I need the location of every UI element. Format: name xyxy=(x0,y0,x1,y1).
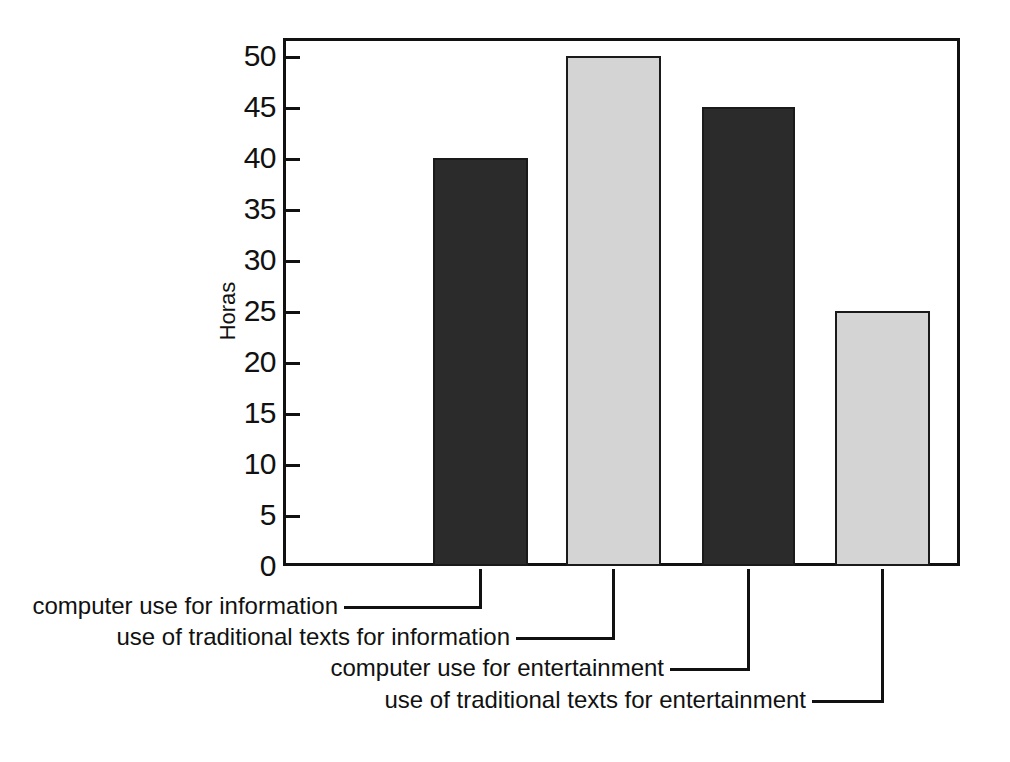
y-tick-mark-15 xyxy=(283,413,300,416)
y-tick-label-30: 30 xyxy=(244,245,276,275)
y-tick-label-35: 35 xyxy=(244,194,276,224)
y-tick-label-25: 25 xyxy=(244,296,276,326)
y-tick-mark-5 xyxy=(283,515,300,518)
y-tick-label-0: 0 xyxy=(260,551,276,581)
y-tick-mark-35 xyxy=(283,209,300,212)
y-tick-label-15: 15 xyxy=(244,398,276,428)
y-tick-mark-25 xyxy=(283,311,300,314)
y-tick-label-50: 50 xyxy=(244,41,276,71)
y-tick-label-5: 5 xyxy=(260,500,276,530)
y-tick-mark-40 xyxy=(283,158,300,161)
bar-traditional-texts-for-entertainment[interactable] xyxy=(835,311,930,566)
leader-line-vertical-4 xyxy=(881,569,884,700)
bar-chart-figure: 50 45 40 35 30 25 20 15 10 5 0 Horas com… xyxy=(0,0,1010,762)
category-label-traditional-texts-for-information: use of traditional texts for information xyxy=(0,625,510,649)
y-tick-mark-10 xyxy=(283,464,300,467)
y-tick-mark-30 xyxy=(283,260,300,263)
leader-line-horizontal-3 xyxy=(670,668,750,671)
y-tick-label-40: 40 xyxy=(244,143,276,173)
y-axis-title: Horas xyxy=(217,251,239,371)
category-label-computer-use-for-entertainment: computer use for entertainment xyxy=(0,656,664,680)
y-tick-mark-20 xyxy=(283,362,300,365)
leader-line-horizontal-4 xyxy=(812,700,884,703)
leader-line-horizontal-2 xyxy=(516,637,615,640)
y-tick-label-45: 45 xyxy=(244,92,276,122)
leader-line-vertical-1 xyxy=(479,569,482,606)
y-tick-mark-50 xyxy=(283,56,300,59)
y-tick-mark-45 xyxy=(283,107,300,110)
leader-line-horizontal-1 xyxy=(344,606,482,609)
y-tick-label-10: 10 xyxy=(244,449,276,479)
bar-computer-use-for-information[interactable] xyxy=(433,158,528,566)
y-tick-label-20: 20 xyxy=(244,347,276,377)
category-label-computer-use-for-information: computer use for information xyxy=(0,594,338,618)
bar-traditional-texts-for-information[interactable] xyxy=(566,56,661,566)
leader-line-vertical-3 xyxy=(747,569,750,668)
category-label-traditional-texts-for-entertainment: use of traditional texts for entertainme… xyxy=(0,688,806,712)
bar-computer-use-for-entertainment[interactable] xyxy=(702,107,795,566)
leader-line-vertical-2 xyxy=(612,569,615,637)
